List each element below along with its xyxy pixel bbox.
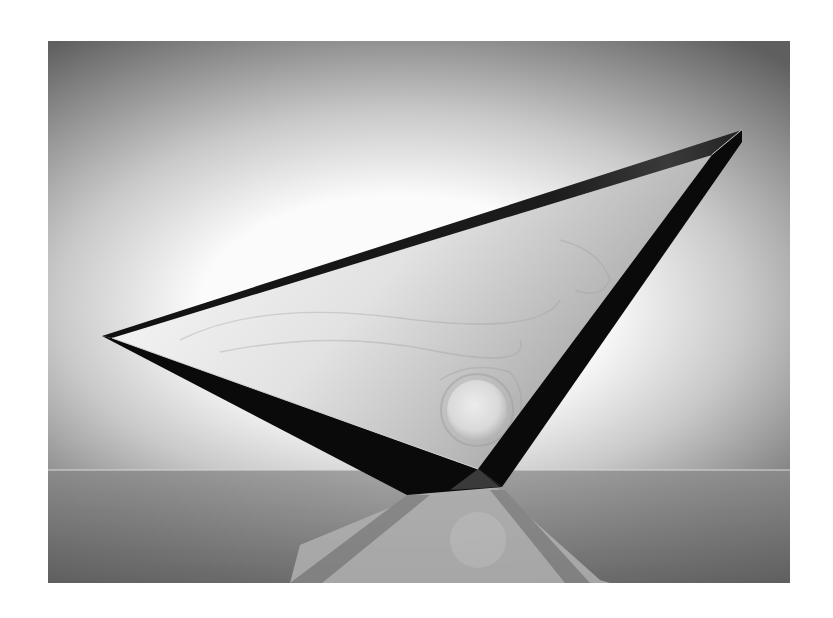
sculpture-photograph xyxy=(48,41,790,583)
page: Black-and-white photograph of a triangul… xyxy=(0,0,833,618)
glass-orb xyxy=(447,380,507,440)
photo-canvas xyxy=(48,41,790,583)
